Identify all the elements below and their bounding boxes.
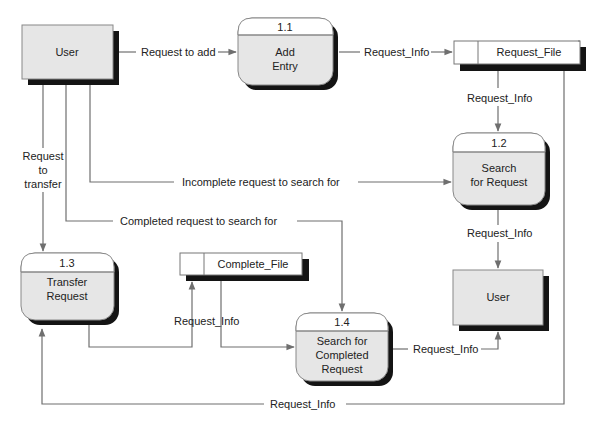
flow-complete-file-to-search-completed — [221, 281, 294, 347]
process-label-line: Completed — [315, 349, 368, 361]
flow-label: Incomplete request to search for — [182, 176, 340, 188]
process-number: 1.4 — [334, 316, 349, 328]
flow-label: Request to add — [141, 46, 216, 58]
process-number: 1.2 — [491, 137, 506, 149]
process-label-line: Entry — [272, 60, 298, 72]
data-store-label: Request_File — [497, 46, 562, 58]
data-flow-diagram: Request to add Request_Info Request_Info… — [0, 0, 594, 425]
flow-request-file-to-search: Request_Info — [467, 66, 532, 131]
process-label-line: Request — [322, 363, 363, 375]
data-store-label: Complete_File — [218, 258, 289, 270]
process-label-line: Add — [275, 46, 295, 58]
flow-request-to-add: Request to add — [119, 46, 236, 58]
entity-label: User — [55, 46, 79, 58]
flow-label: Request_Info — [270, 398, 335, 410]
external-entity-user-bottom[interactable]: User — [453, 270, 549, 331]
data-store-request-file[interactable]: Request_File — [454, 41, 586, 71]
flow-label: Completed request to search for — [120, 215, 277, 227]
flow-label: Request_Info — [364, 46, 429, 58]
flow-request-to-transfer: Request to transfer — [23, 82, 64, 251]
process-label-line: Transfer — [47, 276, 88, 288]
flow-label-line: Request — [23, 150, 64, 162]
flow-search-completed-to-user: Request_Info — [393, 332, 498, 355]
process-label-line: for Request — [471, 176, 528, 188]
flow-label: Request_Info — [467, 92, 532, 104]
flow-label: Request_Info — [467, 227, 532, 239]
flow-label-line: to — [38, 164, 47, 176]
process-number: 1.1 — [277, 21, 292, 33]
process-1-3-transfer-request[interactable]: 1.3 Transfer Request — [21, 253, 119, 325]
process-1-2-search-for-request[interactable]: 1.2 Search for Request — [453, 133, 550, 210]
flow-label-line: transfer — [24, 178, 62, 190]
flow-search-to-user: Request_Info — [467, 210, 532, 268]
process-label-line: Request — [47, 290, 88, 302]
flow-label: Request_Info — [174, 315, 239, 327]
process-number: 1.3 — [59, 257, 74, 269]
flow-incomplete-request: Incomplete request to search for — [90, 82, 451, 188]
flow-add-to-request-file: Request_Info — [339, 46, 452, 58]
process-1-4-search-for-completed-request[interactable]: 1.4 Search for Completed Request — [296, 313, 393, 386]
process-1-1-add-entry[interactable]: 1.1 Add Entry — [238, 18, 338, 90]
process-label-line: Search for — [317, 335, 368, 347]
process-label-line: Search — [482, 162, 517, 174]
flow-label: Request_Info — [413, 343, 478, 355]
data-store-complete-file[interactable]: Complete_File — [180, 253, 309, 281]
entity-label: User — [486, 291, 510, 303]
external-entity-user-top[interactable]: User — [22, 25, 119, 85]
